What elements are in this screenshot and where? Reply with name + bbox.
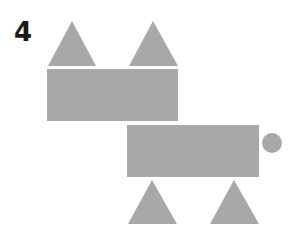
lower-rectangle (127, 125, 259, 177)
top-left-triangle (48, 21, 96, 66)
top-right-triangle (129, 21, 178, 66)
upper-rectangle (47, 69, 178, 121)
shape-diagram (0, 0, 296, 237)
bottom-right-triangle (210, 180, 259, 224)
bottom-left-triangle (128, 180, 177, 224)
circle (262, 133, 282, 153)
